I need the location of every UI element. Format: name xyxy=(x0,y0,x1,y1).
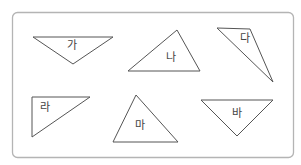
triangle-label: 가 xyxy=(67,39,77,52)
triangle-figure: 가 나 다 라 마 바 xyxy=(0,0,301,165)
triangle-label: 다 xyxy=(240,32,250,45)
triangle-label: 라 xyxy=(40,101,50,114)
triangle-label: 마 xyxy=(135,119,145,132)
triangle-label: 바 xyxy=(232,107,242,120)
triangle-label: 나 xyxy=(166,51,176,64)
